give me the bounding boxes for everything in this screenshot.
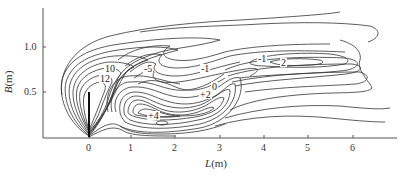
y-axis-var: B — [2, 87, 14, 94]
x-tick-label: 1 — [128, 142, 133, 153]
x-tick-label: 5 — [305, 142, 310, 153]
y-tick-label: 1.0 — [24, 41, 37, 52]
y-tick-label: 0.5 — [24, 86, 37, 97]
contour-label: -5 — [143, 64, 153, 73]
axes — [43, 8, 397, 138]
x-tick-label: 4 — [261, 142, 266, 153]
x-tick-label: 0 — [86, 142, 91, 153]
contour-label: +4 — [147, 111, 160, 120]
y-axis-title: B(m) — [2, 71, 14, 94]
x-tick-label: 3 — [217, 142, 222, 153]
contour-label: +2 — [199, 90, 212, 99]
contour-label: 10 — [104, 64, 116, 73]
x-tick-label: 6 — [350, 142, 355, 153]
x-axis-title: L(m) — [205, 157, 227, 169]
contour-label: -1 — [200, 64, 210, 73]
contour-label: 0 — [211, 82, 218, 91]
x-tick-label: 2 — [172, 142, 177, 153]
contour-label: 12 — [99, 74, 111, 83]
x-axis-unit: (m) — [211, 157, 227, 169]
y-axis-unit: (m) — [2, 71, 14, 87]
contour-label: 2 — [280, 58, 287, 67]
contour-label: -1 — [257, 54, 267, 63]
